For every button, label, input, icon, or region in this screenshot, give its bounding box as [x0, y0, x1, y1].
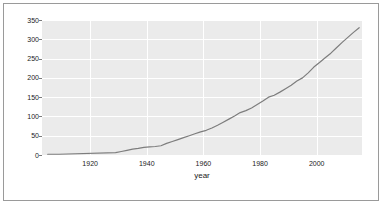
y-tickmark [39, 78, 42, 79]
x-tick-label: 1940 [127, 160, 167, 167]
y-tick-label: 150 [0, 94, 39, 101]
data-series-line [42, 20, 362, 155]
y-tickmark [39, 136, 42, 137]
y-tickmark [39, 39, 42, 40]
x-tick-label: 1980 [240, 160, 280, 167]
y-tick-label: 0 [0, 152, 39, 159]
x-tick-label: 1960 [183, 160, 223, 167]
y-tickmark [39, 97, 42, 98]
x-tick-label: 1920 [70, 160, 110, 167]
y-tick-label: 350 [0, 17, 39, 24]
chart-figure: 050100150200250300350 192019401960198020… [0, 0, 382, 204]
y-tickmark [39, 116, 42, 117]
x-axis-title: year [42, 171, 362, 180]
y-tick-label: 300 [0, 36, 39, 43]
y-tickmark [39, 59, 42, 60]
plot-area [42, 20, 362, 155]
y-tick-label: 100 [0, 113, 39, 120]
y-axis-tick-labels: 050100150200250300350 [0, 0, 39, 204]
x-tick-label: 2000 [297, 160, 337, 167]
y-tickmark [39, 155, 42, 156]
y-tick-label: 50 [0, 132, 39, 139]
y-tick-label: 250 [0, 55, 39, 62]
y-tick-label: 200 [0, 74, 39, 81]
y-tickmark [39, 20, 42, 21]
